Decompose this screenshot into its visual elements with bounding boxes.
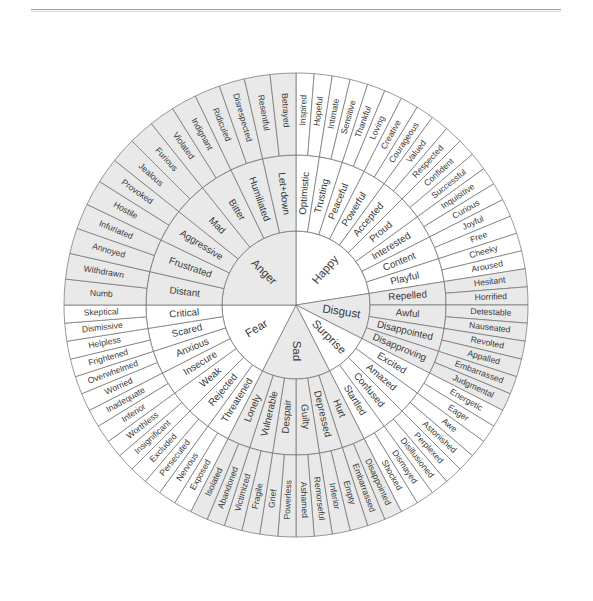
core-label: Sad bbox=[291, 341, 303, 361]
tertiary-label: Inspired bbox=[297, 94, 308, 125]
wheel-segments bbox=[64, 73, 528, 537]
emotion-wheel-figure: OptimisticInspiredHopefulTrustingIntimat… bbox=[0, 0, 593, 601]
tertiary-label: Horrified bbox=[474, 291, 507, 302]
tertiary-label: Detestable bbox=[470, 306, 512, 318]
tertiary-label: Ashamed bbox=[299, 481, 310, 518]
secondary-label: Awful bbox=[395, 306, 420, 319]
tertiary-label: Betrayed bbox=[280, 93, 292, 128]
page-canvas: EMOTION WHEEL OptimisticInspiredHopefulT… bbox=[0, 0, 593, 601]
tertiary-label: Skeptical bbox=[84, 306, 119, 317]
tertiary-label: Powerless bbox=[282, 480, 294, 520]
tertiary-label: Numb bbox=[90, 288, 114, 299]
secondary-label: Guilty bbox=[299, 404, 312, 430]
secondary-label: Critical bbox=[169, 306, 200, 319]
